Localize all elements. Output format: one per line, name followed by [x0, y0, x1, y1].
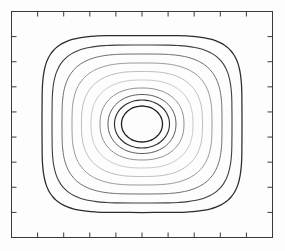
contour-figure [0, 0, 285, 251]
contour-plot-svg [0, 0, 285, 251]
